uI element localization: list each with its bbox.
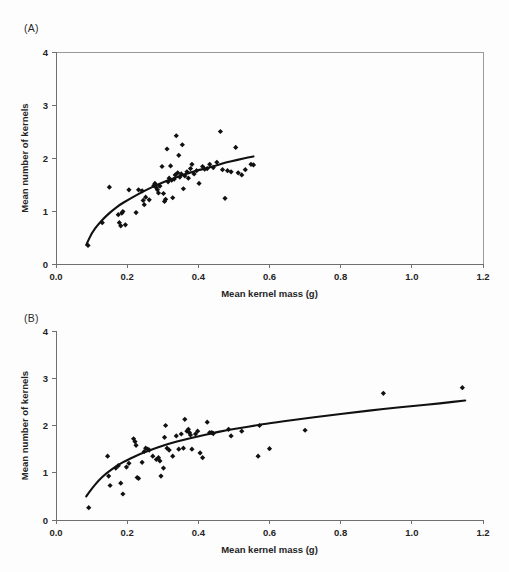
y-axis-title: Mean number of kernels [19,371,30,480]
y-tick-label: 2 [43,153,48,164]
data-point [200,455,205,460]
data-point [170,195,175,200]
x-axis-title: Mean kernel mass (g) [221,544,318,555]
y-tick-label: 1 [43,206,49,217]
data-point [174,433,179,438]
data-point-group [85,129,256,248]
x-tick-label: 1.2 [476,271,489,282]
data-point [189,447,194,452]
data-point [105,454,110,459]
data-point [163,423,168,428]
x-tick-label: 0.4 [192,271,206,282]
data-point [243,167,248,172]
panel-b-plot: 0.00.20.40.60.81.01.201234Mean kernel ma… [0,290,509,572]
data-point [123,222,128,227]
x-tick-label: 0.2 [121,527,134,538]
x-tick-label: 0.8 [334,271,347,282]
data-point [188,166,193,171]
data-point [218,129,223,134]
x-tick-label: 0.2 [121,271,134,282]
data-point [233,145,238,150]
data-point [162,435,167,440]
data-point [182,417,187,422]
y-tick-label: 2 [43,420,48,431]
data-point [228,433,233,438]
data-point [198,450,203,455]
data-point [181,186,186,191]
data-point [133,210,138,215]
data-point [120,491,125,496]
plot-frame [56,52,483,264]
y-tick-label: 3 [43,373,48,384]
data-point [168,163,173,168]
data-point [196,181,201,186]
panel-b: (B) 0.00.20.40.60.81.01.201234Mean kerne… [0,290,509,572]
x-tick-label: 0.4 [192,527,206,538]
data-point [176,447,181,452]
data-point [381,391,386,396]
data-point [189,162,194,167]
data-point-group [86,385,465,510]
data-point [239,429,244,434]
data-point [164,146,169,151]
data-point [220,167,225,172]
data-point [150,454,155,459]
data-point [161,465,166,470]
data-point [460,385,465,390]
x-tick-label: 1.0 [405,527,418,538]
x-tick-label: 0.6 [263,271,276,282]
data-point [174,133,179,138]
data-point [302,428,307,433]
data-point [86,505,91,510]
y-tick-label: 4 [43,326,49,337]
data-point [107,185,112,190]
data-point [126,187,131,192]
data-point [256,454,261,459]
data-point [222,196,227,201]
x-tick-label: 1.0 [405,271,418,282]
data-point [180,142,185,147]
fit-curve [86,400,465,496]
x-tick-label: 1.2 [476,527,489,538]
x-tick-label: 0.0 [49,271,62,282]
data-point [176,153,181,158]
data-point [267,446,272,451]
data-point [118,481,123,486]
y-tick-label: 3 [43,100,48,111]
panel-a-plot: 0.00.20.40.60.81.01.201234Mean kernel ma… [0,0,509,305]
y-tick-label: 1 [43,467,49,478]
y-axis-title: Mean number of kernels [19,103,30,212]
data-point [205,420,210,425]
data-point [126,461,131,466]
data-point [140,460,145,465]
x-tick-label: 0.0 [49,527,62,538]
data-point [181,446,186,451]
x-tick-label: 0.8 [334,527,347,538]
y-tick-label: 0 [43,515,48,526]
data-point [159,164,164,169]
data-point [142,202,147,207]
x-tick-label: 0.6 [263,527,276,538]
data-point [158,473,163,478]
data-point [170,454,175,459]
data-point [161,191,166,196]
y-tick-label: 4 [43,47,49,58]
data-point [133,443,138,448]
figure-container: (A) 0.00.20.40.60.81.01.201234Mean kerne… [0,0,509,572]
data-point [107,483,112,488]
y-tick-label: 0 [43,259,48,270]
data-point [124,464,129,469]
panel-a: (A) 0.00.20.40.60.81.01.201234Mean kerne… [0,0,509,305]
data-point [179,431,184,436]
